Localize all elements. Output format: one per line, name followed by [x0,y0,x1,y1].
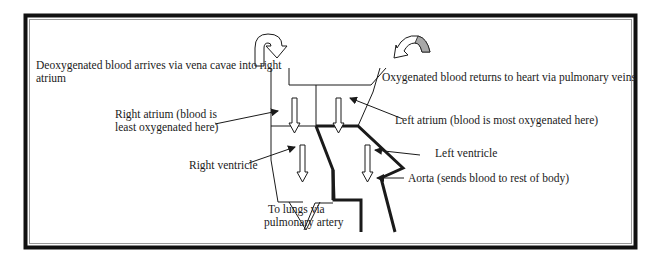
left-atrium-label: Left atrium (blood is most oxygenated he… [395,114,598,127]
pulmonary-artery-label-cont: pulmonary artery [264,216,344,229]
pulmonary-artery-label: To lungs via [268,203,325,216]
aorta-flow-arrow [362,145,373,182]
right-atrium-label: Right atrium (blood is [115,108,217,121]
right-ventricle-label: Right ventricle [189,159,258,172]
aorta-label: Aorta (sends blood to rest of body) [408,172,569,185]
right-atrium-pointer [215,111,278,124]
vena-cavae-label-cont: atrium [36,72,66,84]
right-ventricle-flow-arrow [297,145,308,182]
left-atrium-flow-arrow [333,98,344,133]
pulmonary-veins-label: Oxygenated blood returns to heart via pu… [382,71,636,84]
flow-arrows [289,98,373,182]
heart-blood-flow-diagram: Deoxygenated blood arrives via vena cava… [0,0,659,261]
left-ventricle-pointer [375,150,420,155]
left-ventricle-label: Left ventricle [435,147,497,159]
vena-cavae-label: Deoxygenated blood arrives via vena cava… [36,59,282,72]
right-atrium-flow-arrow [289,98,300,133]
right-atrium-label-cont: least oxygenated here) [115,121,219,134]
pulmonary-vein-curved-arrow [394,36,430,58]
